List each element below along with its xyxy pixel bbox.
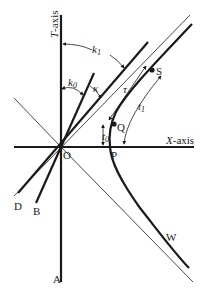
light-line-lower-right	[61, 147, 193, 282]
k1-angle-arc	[63, 44, 92, 50]
light-line-upper-left	[14, 98, 61, 147]
label-k1: k1	[92, 43, 101, 57]
spacetime-diagram: T-axis X-axis O P Q S W A B D k0 k1 κ τ …	[0, 0, 209, 302]
label-Q: Q	[117, 121, 125, 133]
worldline-k1-D	[18, 42, 148, 193]
label-t0: t0	[102, 130, 109, 144]
point-S-marker	[149, 67, 154, 72]
label-A: A	[53, 273, 61, 285]
x-axis-label: X-axis	[165, 134, 194, 146]
label-W: W	[166, 231, 177, 243]
point-Q-marker	[111, 121, 116, 126]
label-B: B	[33, 205, 40, 217]
label-S: S	[156, 65, 162, 77]
t-axis-label: T-axis	[48, 10, 60, 38]
label-k0: k0	[68, 76, 77, 90]
k1-angle-arc-right	[110, 55, 124, 68]
label-P: P	[111, 149, 117, 161]
label-D: D	[14, 200, 22, 212]
asymptote-line	[14, 15, 190, 196]
label-O: O	[63, 149, 71, 161]
label-kappa: κ	[93, 82, 99, 94]
